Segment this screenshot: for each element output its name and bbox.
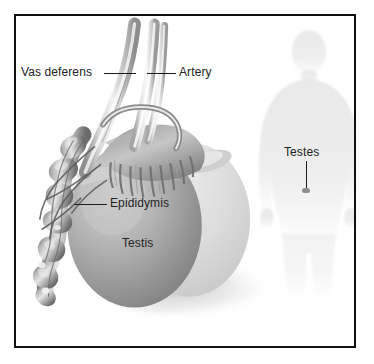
label-testis: Testis <box>122 237 153 250</box>
location-marker-icon <box>302 188 310 193</box>
leader-line-testes <box>306 161 307 189</box>
leader-line-vas-deferens <box>104 73 136 74</box>
label-artery: Artery <box>179 66 212 79</box>
illustration-plate: Vas deferens Artery Epididymis Testis Te… <box>14 14 356 348</box>
label-vas-deferens: Vas deferens <box>21 66 92 79</box>
leader-line-epididymis <box>74 204 107 205</box>
label-testes: Testes <box>284 146 319 159</box>
leader-line-artery <box>147 73 176 74</box>
label-epididymis: Epididymis <box>110 197 169 210</box>
